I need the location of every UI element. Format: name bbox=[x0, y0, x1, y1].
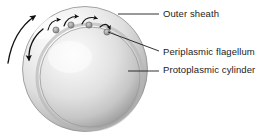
callout-label-outer-sheath: Outer sheath bbox=[163, 8, 219, 19]
callout-label-protoplasmic-cylinder: Protoplasmic cylinder bbox=[163, 64, 255, 75]
callout-label-layer: Outer sheath Periplasmic flagellum Proto… bbox=[0, 0, 277, 133]
figure-canvas: Outer sheath Periplasmic flagellum Proto… bbox=[0, 0, 277, 133]
callout-label-periplasmic-flagellum: Periplasmic flagellum bbox=[163, 46, 255, 57]
